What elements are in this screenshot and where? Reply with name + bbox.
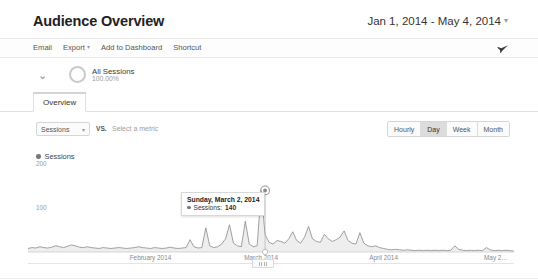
grip-line <box>261 262 262 266</box>
chevron-down-icon: ▾ <box>504 16 508 25</box>
primary-metric-label: Sessions <box>41 126 69 133</box>
grip-line <box>264 262 265 266</box>
report-header: Audience Overview Jan 1, 2014 - May 4, 2… <box>0 0 538 38</box>
x-axis-tick-april: April 2014 <box>369 254 398 261</box>
tooltip-metric-label: Sessions: <box>194 204 223 211</box>
export-label: Export <box>63 43 85 52</box>
grip-line <box>266 262 267 266</box>
series-color-swatch <box>187 206 191 210</box>
email-button[interactable]: Email <box>33 43 52 52</box>
export-button[interactable]: Export▾ <box>63 43 90 52</box>
tooltip-date: Sunday, March 2, 2014 <box>187 196 259 203</box>
action-list: Email Export▾ Add to Dashboard Shortcut <box>33 43 201 52</box>
audience-overview-page: Audience Overview Jan 1, 2014 - May 4, 2… <box>0 0 538 279</box>
tooltip-metric-row: Sessions: 140 <box>187 204 259 211</box>
sessions-timeseries-chart[interactable] <box>28 160 514 256</box>
chart-plot-area[interactable] <box>28 160 514 256</box>
report-actions-toolbar: Email Export▾ Add to Dashboard Shortcut <box>0 38 538 58</box>
chart-area-fill <box>28 190 514 252</box>
tab-overview[interactable]: Overview <box>33 92 86 112</box>
primary-metric-select[interactable]: Sessions ▾ <box>36 122 90 136</box>
chevron-down-icon[interactable]: ⌄ <box>38 70 47 80</box>
date-range-label: Jan 1, 2014 - May 4, 2014 <box>367 15 501 27</box>
granularity-button-group: Hourly Day Week Month <box>387 121 510 137</box>
chevron-down-icon: ▾ <box>82 126 85 133</box>
chart-line <box>28 190 514 251</box>
tooltip-metric-value: 140 <box>225 204 236 211</box>
granularity-week[interactable]: Week <box>447 122 478 136</box>
page-title: Audience Overview <box>33 13 164 29</box>
donut-chart-icon <box>69 66 86 83</box>
x-axis-tick-february: February 2014 <box>130 254 172 261</box>
chart-tooltip: Sunday, March 2, 2014 Sessions: 140 <box>181 192 265 216</box>
segment-percent: 100.00% <box>92 75 119 82</box>
vs-label: VS. <box>96 125 107 132</box>
drag-handle-icon[interactable] <box>252 259 274 268</box>
chevron-down-icon: ▾ <box>87 44 90 50</box>
series-color-swatch <box>36 154 41 159</box>
report-tabstrip: Overview <box>0 92 538 112</box>
shortcut-button[interactable]: Shortcut <box>173 43 201 52</box>
grip-line <box>259 262 260 266</box>
granularity-hourly[interactable]: Hourly <box>388 122 421 136</box>
metric-selector-row: Sessions ▾ VS. Select a metric Hourly Da… <box>0 118 538 146</box>
segment-bar: ⌄ All Sessions 100.00% <box>0 59 538 92</box>
x-axis-tick-may: May 2... <box>484 254 507 261</box>
granularity-month[interactable]: Month <box>478 122 509 136</box>
date-range-picker[interactable]: Jan 1, 2014 - May 4, 2014▾ <box>367 15 508 27</box>
add-to-dashboard-button[interactable]: Add to Dashboard <box>101 43 162 52</box>
secondary-metric-select[interactable]: Select a metric <box>112 125 158 132</box>
granularity-day[interactable]: Day <box>421 122 446 136</box>
share-icon[interactable] <box>497 44 509 54</box>
